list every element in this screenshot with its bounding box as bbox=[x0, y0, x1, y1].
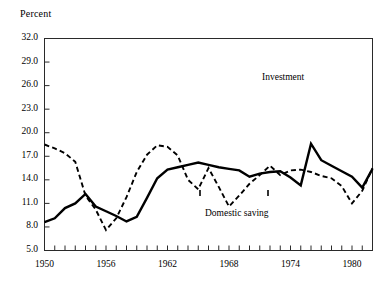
y-tick-label: 32.0 bbox=[8, 32, 38, 42]
y-tick-label: 26.0 bbox=[8, 79, 38, 89]
plot-area bbox=[0, 0, 392, 288]
x-tick-label: 1950 bbox=[25, 259, 65, 269]
x-tick-label: 1962 bbox=[148, 259, 188, 269]
y-tick-label: 5.0 bbox=[8, 244, 38, 254]
y-tick-label: 11.0 bbox=[8, 197, 38, 207]
series-label-investment: Investment bbox=[262, 72, 304, 82]
y-tick-label: 29.0 bbox=[8, 56, 38, 66]
x-tick-label: 1956 bbox=[86, 259, 126, 269]
y-tick-label: 20.0 bbox=[8, 126, 38, 136]
x-tick-label: 1968 bbox=[209, 259, 249, 269]
y-tick-label: 23.0 bbox=[8, 103, 38, 113]
y-tick-label: 14.0 bbox=[8, 173, 38, 183]
y-tick-label: 8.0 bbox=[8, 220, 38, 230]
series-label-domestic-saving: Domestic saving bbox=[205, 208, 269, 218]
x-tick-label: 1974 bbox=[271, 259, 311, 269]
plot-frame bbox=[45, 39, 373, 251]
x-tick-label: 1980 bbox=[332, 259, 372, 269]
chart-figure: Percent 32.029.026.023.020.017.014.011.0… bbox=[0, 0, 392, 288]
y-tick-label: 17.0 bbox=[8, 150, 38, 160]
